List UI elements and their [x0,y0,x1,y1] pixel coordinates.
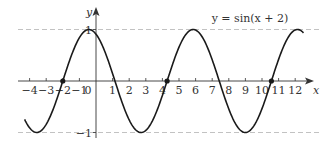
x-tick-label: 1 [109,84,116,97]
y-axis: 1−1 [76,7,100,140]
zero-crossing-dot [164,78,169,83]
sine-chart: −4−3−2−1123456789101112 1−1 y = sin(x + … [0,0,329,149]
x-tick-label: 11 [272,84,286,97]
x-tick-label: 6 [192,84,199,97]
x-tick-label: −3 [38,84,54,97]
zero-crossing-dot [60,78,65,83]
y-tick-label: −1 [76,127,92,140]
x-axis-label: x [313,84,320,97]
x-tick-label: 12 [288,84,302,97]
x-tick-label: 8 [225,84,232,97]
y-axis-label: y [85,6,93,19]
origin-label: 0 [85,84,92,97]
x-tick-label: 7 [209,84,216,97]
x-tick-label: 2 [126,84,133,97]
x-tick-label: −2 [55,84,71,97]
x-tick-label: −4 [21,84,37,97]
zero-crossing-dot [269,78,274,83]
function-label: y = sin(x + 2) [211,12,289,25]
x-tick-label: 9 [242,84,249,97]
x-tick-label: 5 [176,84,183,97]
x-tick-label: 3 [142,84,149,97]
